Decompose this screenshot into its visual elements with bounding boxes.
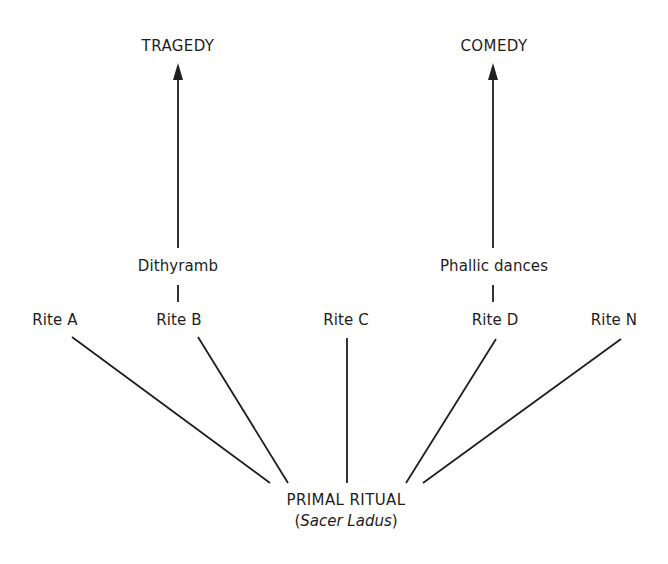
rite-n-label: Rite N xyxy=(591,311,637,329)
rite-b-label: Rite B xyxy=(156,311,201,329)
rite-a-label: Rite A xyxy=(32,311,77,329)
rite-b-connector xyxy=(198,337,288,483)
arrowhead-icon xyxy=(488,63,498,80)
phallic-dances-label: Phallic dances xyxy=(440,257,548,275)
tragedy-arrow xyxy=(173,63,183,248)
rite-d-connector xyxy=(406,339,496,483)
tragedy-label: TRAGEDY xyxy=(142,37,215,55)
primal-ritual-label: PRIMAL RITUAL xyxy=(286,491,405,509)
arrowhead-icon xyxy=(173,63,183,80)
rite-n-connector xyxy=(423,339,621,483)
dithyramb-label: Dithyramb xyxy=(138,257,218,275)
paren-close: ) xyxy=(392,512,398,530)
comedy-label: COMEDY xyxy=(461,37,528,55)
sacer-ladus-sublabel: (Sacer Ladus) xyxy=(294,512,397,530)
sacer-ladus-italic: Sacer Ladus xyxy=(300,512,392,530)
rite-c-label: Rite C xyxy=(323,311,369,329)
comedy-arrow xyxy=(488,63,498,248)
rite-a-connector xyxy=(72,337,270,483)
diagram-connectors xyxy=(0,0,668,564)
rite-d-label: Rite D xyxy=(472,311,519,329)
